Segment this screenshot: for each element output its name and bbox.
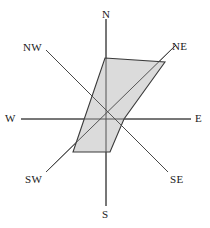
axis-label-nw: NW bbox=[23, 42, 42, 53]
axis-lines-overlay-group bbox=[21, 19, 191, 206]
axis-label-n: N bbox=[102, 9, 110, 20]
axis-label-se: SE bbox=[170, 174, 183, 185]
axis-label-s: S bbox=[102, 209, 108, 220]
data-polygon-group bbox=[73, 58, 165, 152]
wind-rose-figure: N NE E SE S SW W NW bbox=[0, 0, 210, 228]
axis-label-ne: NE bbox=[172, 41, 187, 52]
wind-rose-chart bbox=[0, 0, 210, 228]
axis-label-sw: SW bbox=[25, 174, 42, 185]
axis-label-w: W bbox=[5, 113, 16, 124]
axis-label-e: E bbox=[195, 113, 202, 124]
wind-rose-polygon bbox=[73, 58, 165, 152]
